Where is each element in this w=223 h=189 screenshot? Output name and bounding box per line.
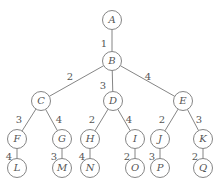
node-label: L: [13, 162, 21, 173]
node-o: O: [126, 159, 145, 178]
node-label: A: [107, 14, 115, 25]
edge-weight-d-i: 4: [126, 114, 132, 125]
edge-d-h: [95, 109, 108, 131]
node-label: H: [85, 133, 95, 144]
edge-weight-e-j: 2: [159, 114, 165, 125]
node-label: C: [37, 95, 45, 106]
node-label: K: [198, 133, 207, 144]
edge-weight-h-n: 4: [79, 151, 85, 162]
edge-weight-d-h: 2: [89, 114, 95, 125]
node-k: K: [194, 130, 213, 149]
edge-c-f: [22, 109, 36, 131]
edge-weight-g-m: 3: [51, 151, 57, 162]
node-label: J: [156, 133, 163, 144]
node-c: C: [32, 92, 51, 111]
node-d: D: [104, 92, 123, 111]
node-label: O: [131, 162, 139, 173]
node-label: P: [156, 162, 164, 173]
edge-b-c: [49, 66, 103, 97]
node-g: G: [53, 130, 72, 149]
edge-weight-b-c: 2: [67, 71, 73, 82]
node-j: J: [151, 130, 170, 149]
node-p: P: [151, 159, 170, 178]
edge-weight-i-o: 2: [124, 151, 130, 162]
node-label: Q: [199, 162, 207, 173]
node-label: N: [85, 162, 96, 173]
weighted-tree-diagram: 1234342423434232 ABCDEFGHIJKLMNOPQ: [0, 0, 223, 189]
node-label: F: [13, 133, 22, 144]
node-f: F: [8, 130, 27, 149]
node-label: E: [178, 95, 187, 106]
node-b: B: [103, 52, 122, 71]
edge-weight-e-k: 3: [196, 114, 202, 125]
edge-weight-j-p: 3: [149, 151, 155, 162]
edge-weight-a-b: 1: [101, 38, 107, 49]
edge-weight-k-q: 2: [192, 151, 198, 162]
edge-weight-c-f: 3: [16, 114, 22, 125]
edge-e-j: [165, 109, 178, 131]
node-label: B: [107, 55, 115, 66]
node-label: D: [108, 95, 117, 106]
node-label: M: [56, 162, 68, 173]
edge-weight-b-d: 3: [100, 80, 106, 91]
node-l: L: [8, 159, 27, 178]
edge-weight-b-e: 4: [145, 71, 151, 82]
node-e: E: [174, 92, 193, 111]
edge-weight-c-g: 4: [56, 114, 62, 125]
node-layer: ABCDEFGHIJKLMNOPQ: [8, 11, 213, 178]
node-m: M: [53, 159, 72, 178]
node-a: A: [103, 11, 122, 30]
node-i: I: [126, 130, 145, 149]
node-n: N: [81, 159, 100, 178]
node-q: Q: [194, 159, 213, 178]
edge-weight-f-l: 4: [6, 151, 12, 162]
edge-b-d: [112, 70, 113, 91]
node-h: H: [81, 130, 100, 149]
node-label: G: [58, 133, 66, 144]
